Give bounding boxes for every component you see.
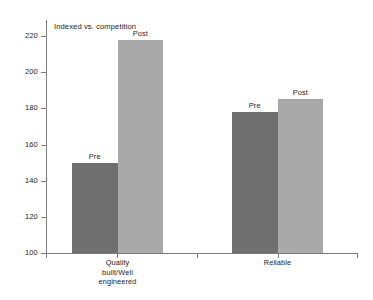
bar-series-label: Pre [72, 152, 118, 161]
category-label-line: engineered [72, 277, 163, 287]
bar-series-label: Post [118, 29, 164, 38]
bars-layer: PrePostPrePost [0, 0, 373, 253]
bar-chart: Indexed vs. competition 2202001801601401… [0, 0, 373, 300]
bar-series-label: Post [278, 88, 324, 97]
category-label-line: Reliable [232, 258, 323, 268]
category-label-line: built/Well [72, 268, 163, 278]
x-axis-tick [197, 253, 198, 258]
category-label: Qualitybuilt/Wellengineered [72, 258, 163, 287]
category-label: Reliable [232, 258, 323, 268]
x-axis-tick [46, 253, 47, 258]
bar-post-1[interactable] [118, 40, 164, 253]
bar-pre-2[interactable] [232, 112, 278, 253]
category-label-line: Quality [72, 258, 163, 268]
bar-pre-1[interactable] [72, 163, 118, 253]
bar-post-2[interactable] [278, 99, 324, 253]
x-axis-tick [357, 253, 358, 258]
x-axis-line [46, 253, 358, 254]
bar-series-label: Pre [232, 101, 278, 110]
